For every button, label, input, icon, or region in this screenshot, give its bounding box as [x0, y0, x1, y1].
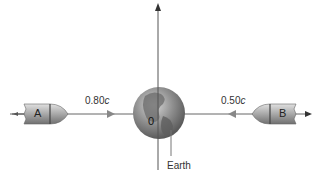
ship-b-speed: 0.50c: [221, 95, 245, 106]
diagram-canvas: [0, 0, 318, 183]
ship-b-speed-value: 0.50: [221, 95, 240, 106]
x-axis-arrow-icon: [305, 111, 312, 117]
arrow-left-icon: [228, 110, 236, 118]
ship-b-speed-unit: c: [240, 95, 245, 106]
origin-label: 0: [148, 115, 154, 127]
y-axis-arrow-icon: [155, 3, 161, 11]
earth-label: Earth: [167, 160, 191, 171]
spaceship-b: [252, 104, 296, 124]
ship-a-speed: 0.80c: [85, 95, 109, 106]
arrow-right-icon: [107, 110, 115, 118]
ship-a-speed-unit: c: [104, 95, 109, 106]
ship-b-label: B: [279, 107, 286, 119]
earth-globe: [133, 87, 185, 139]
ship-a-label: A: [34, 107, 41, 119]
ship-a-speed-value: 0.80: [85, 95, 104, 106]
y-axis: [155, 3, 161, 170]
